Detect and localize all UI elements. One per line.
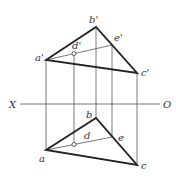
label-e: e bbox=[118, 132, 124, 143]
axis-label-o: O bbox=[163, 99, 171, 110]
point-d-prime bbox=[72, 52, 76, 56]
label-d: d bbox=[84, 130, 90, 141]
label-a-prime: a' bbox=[35, 52, 44, 63]
top-view: a b c d e bbox=[39, 109, 147, 171]
label-b: b bbox=[86, 109, 92, 120]
label-e-prime: e' bbox=[114, 32, 123, 43]
point-d bbox=[72, 143, 76, 147]
projection-lines bbox=[46, 27, 137, 165]
label-a: a bbox=[39, 153, 45, 164]
axis-label-x: X bbox=[8, 99, 17, 110]
label-b-prime: b' bbox=[89, 14, 98, 25]
label-d-prime: d' bbox=[72, 40, 81, 51]
label-c: c bbox=[141, 160, 147, 171]
label-c-prime: c' bbox=[141, 67, 149, 78]
front-view: a' b' c' d' e' bbox=[35, 14, 149, 78]
projection-diagram: X O a' b' c' d' e' a b c d e bbox=[0, 0, 176, 179]
